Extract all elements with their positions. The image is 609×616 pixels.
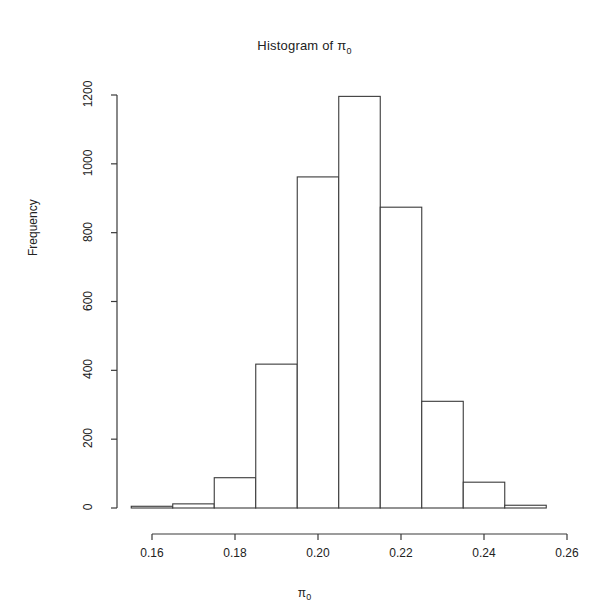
x-tick-label: 0.26 — [541, 546, 593, 560]
y-tick-label: 400 — [81, 351, 95, 387]
histogram-bars — [131, 96, 546, 508]
x-tick-label: 0.24 — [458, 546, 510, 560]
histogram-bar — [297, 177, 339, 508]
histogram-bar — [339, 96, 381, 508]
y-tick-label: 200 — [81, 420, 95, 456]
y-tick-label: 0 — [81, 489, 95, 525]
x-tick-label: 0.16 — [126, 546, 178, 560]
histogram-figure: Histogram of π0 Frequency π0 02004006008… — [0, 0, 609, 616]
histogram-bar — [505, 505, 547, 508]
histogram-bar — [173, 504, 215, 508]
x-tick-label: 0.20 — [292, 546, 344, 560]
histogram-bar — [256, 364, 298, 508]
y-tick-label: 600 — [81, 283, 95, 319]
x-axis — [152, 534, 567, 540]
x-tick-label: 0.22 — [375, 546, 427, 560]
histogram-bar — [380, 207, 422, 508]
y-axis — [111, 95, 117, 508]
histogram-bar — [422, 401, 464, 508]
y-tick-label: 1200 — [81, 76, 95, 112]
histogram-bar — [214, 478, 256, 508]
y-tick-label: 1000 — [81, 145, 95, 181]
histogram-bar — [131, 506, 173, 508]
histogram-bar — [463, 482, 505, 508]
y-tick-label: 800 — [81, 214, 95, 250]
x-tick-label: 0.18 — [209, 546, 261, 560]
